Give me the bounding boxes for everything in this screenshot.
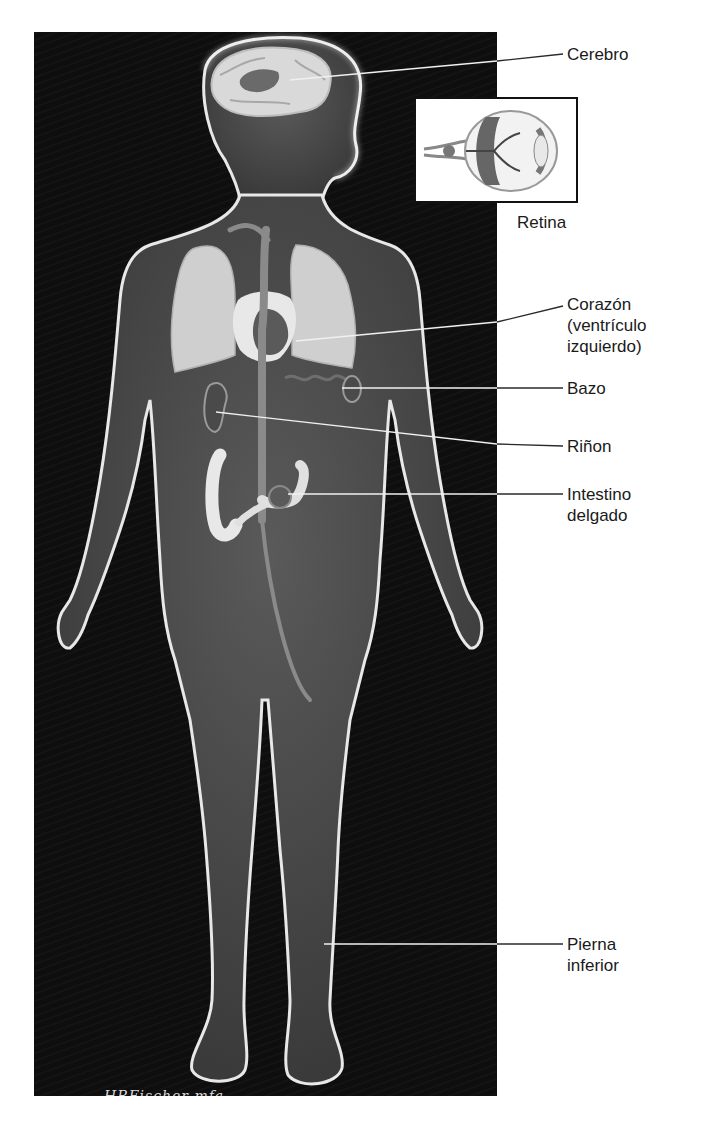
leader-line-rinon-ext	[497, 444, 563, 446]
label-intestino: Intestino delgado	[567, 484, 631, 526]
leader-line-cerebro-ext	[497, 54, 563, 61]
brain-organ	[212, 47, 331, 116]
label-cerebro: Cerebro	[567, 44, 628, 65]
artist-signature: HRFischer mfa	[104, 1088, 224, 1096]
retina-inset	[414, 97, 578, 203]
label-bazo: Bazo	[567, 378, 606, 399]
label-corazon: Corazón (ventrículo izquierdo)	[567, 294, 646, 357]
label-pierna: Pierna inferior	[567, 934, 619, 976]
eye-diagram	[416, 99, 576, 201]
leader-line-corazon-ext	[497, 306, 563, 322]
label-retina: Retina	[517, 212, 566, 233]
label-rinon: Riñon	[567, 436, 611, 457]
spleen-organ	[343, 376, 361, 402]
